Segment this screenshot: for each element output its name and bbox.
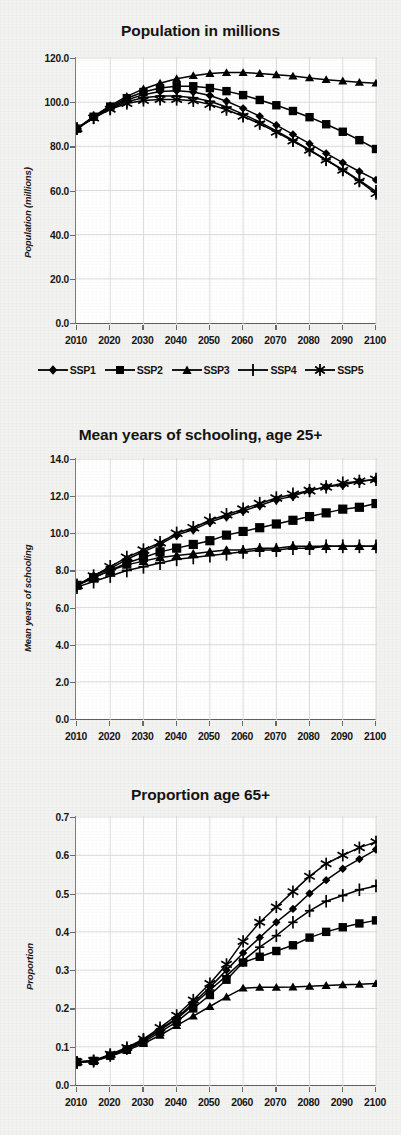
square-marker [272,519,281,528]
x-tick-mark [342,1087,343,1092]
y-tick-mark [70,323,75,324]
square-marker [372,145,377,153]
x-tick-label: 2040 [165,731,187,742]
y-tick-label: 100.0 [25,97,69,108]
legend-item-ssp1[interactable]: SSP1 [38,363,96,377]
x-tick-label: 2090 [331,1097,353,1108]
x-tick-label: 2070 [264,335,286,346]
x-tick-mark [309,721,310,726]
legend-label-ssp2: SSP2 [137,364,163,376]
square-marker [372,916,377,924]
x-tick-mark [142,1087,143,1092]
square-marker [288,516,297,525]
square-marker [189,540,198,549]
series-ssp5 [76,836,377,1068]
x-tick-label: 2100 [364,1097,386,1108]
x-tick-label: 2090 [331,335,353,346]
series-ssp4 [76,880,377,1069]
y-tick-label: 80.0 [25,141,69,152]
y-tick-mark [70,496,75,497]
x-tick-mark [309,325,310,330]
gridlines [76,57,377,324]
square-marker [355,136,363,144]
y-tick-mark [70,570,75,571]
legend-item-ssp5[interactable]: SSP5 [305,363,363,377]
y-tick-mark [70,894,75,895]
gridlines [76,458,377,720]
square-marker [355,919,363,927]
y-tick-mark [70,608,75,609]
square-marker [355,503,364,512]
y-tick-label: 120.0 [25,53,69,64]
x-tick-label: 2100 [364,335,386,346]
square-marker [305,933,313,941]
x-tick-label: 2060 [231,1097,253,1108]
y-tick-mark [70,970,75,971]
y-tick-mark [70,146,75,147]
legend-label-ssp5: SSP5 [337,364,363,376]
chart-canvas [76,57,377,324]
x-tick-label: 2060 [231,731,253,742]
square-marker [339,923,347,931]
legend-item-ssp4[interactable]: SSP4 [238,363,296,377]
x-tick-mark [242,1087,243,1092]
x-tick-label: 2090 [331,731,353,742]
square-marker [206,84,214,92]
asterisk-marker [271,491,283,504]
y-tick-mark [70,932,75,933]
x-tick-label: 2010 [65,335,87,346]
plus-marker [288,916,297,929]
square-marker [256,953,264,961]
x-tick-label: 2020 [98,335,120,346]
chart-title-population: Population in millions [0,22,401,40]
y-tick-mark [70,191,75,192]
x-tick-mark [375,721,376,726]
x-tick-label: 2030 [131,335,153,346]
plus-marker [304,541,314,555]
triangle-marker [222,993,231,1001]
plus-marker [221,547,231,561]
plus-marker [288,541,298,555]
x-tick-label: 2020 [98,731,120,742]
x-tick-label: 2040 [165,1097,187,1108]
y-tick-label: 40.0 [25,229,69,240]
series-ssp2 [76,82,377,153]
x-tick-label: 2080 [298,335,320,346]
y-tick-mark [70,533,75,534]
gridlines [76,816,377,1086]
y-tick-label: 6.0 [25,602,69,613]
legend-item-ssp3[interactable]: SSP3 [172,363,230,377]
y-tick-mark [70,645,75,646]
series-ssp2 [76,916,377,1066]
square-marker [305,512,314,521]
chart-title-proportion: Proportion age 65+ [0,786,401,804]
x-tick-label: 2030 [131,731,153,742]
y-tick-label: 20.0 [25,273,69,284]
plus-marker [371,880,377,893]
x-tick-mark [76,721,77,726]
series-ssp1 [76,845,377,1066]
triangle-marker [189,1012,198,1020]
x-tick-mark [342,721,343,726]
square-marker [205,536,214,545]
y-axis-label-schooling: Mean years of schooling [22,545,33,652]
x-tick-label: 2100 [364,731,386,742]
plus-marker [322,895,331,908]
chart-panel-proportion: Proportion age 65+ Proportion 0.00.10.20… [0,760,401,1135]
x-tick-label: 2010 [65,1097,87,1108]
plus-marker [255,941,264,954]
x-tick-mark [109,721,110,726]
asterisk-marker [354,175,365,187]
x-tick-label: 2080 [298,731,320,742]
y-tick-label: 0.6 [25,850,69,861]
square-marker [371,499,377,508]
square-marker [339,128,347,136]
plus-marker [272,929,281,942]
legend-label-ssp3: SSP3 [204,364,230,376]
triangle-marker-icon [172,363,202,377]
y-tick-mark [70,855,75,856]
square-marker [305,113,313,121]
legend-item-ssp2[interactable]: SSP2 [105,363,163,377]
square-marker [322,120,330,128]
y-tick-mark [70,817,75,818]
